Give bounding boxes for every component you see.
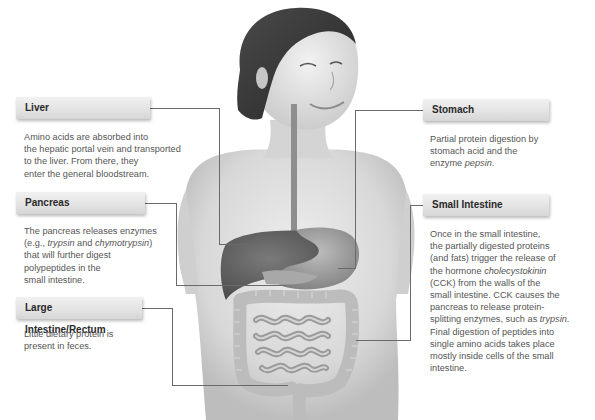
small-intestine-title: Small Intestine [432, 199, 503, 210]
liver-description: Amino acids are absorbed into the hepati… [24, 131, 224, 180]
liver-label: Liver [16, 97, 150, 119]
large-intestine-leader-line-vertical [172, 308, 173, 386]
large-intestine-leader-line-end [172, 385, 288, 386]
pancreas-description: The pancreas releases enzymes (e.g., try… [24, 225, 184, 286]
large-intestine-leader-line [142, 308, 173, 309]
large-intestine-label: Large Intestine/Rectum [16, 297, 142, 319]
stomach-leader-line-end [338, 268, 356, 269]
pancreas-label: Pancreas [16, 192, 145, 214]
small-intestine-label: Small Intestine [423, 194, 549, 216]
small-intestine-leader-line-end [356, 340, 411, 341]
stomach-leader-line-vertical [355, 110, 356, 269]
liver-title: Liver [25, 102, 49, 113]
small-intestine-leader-line [410, 205, 424, 206]
liver-leader-line-end [219, 244, 247, 245]
liver-leader-line [150, 108, 220, 109]
pancreas-title: Pancreas [25, 197, 69, 208]
pancreas-leader-line [145, 203, 177, 204]
stomach-description: Partial protein digestion by stomach aci… [430, 133, 590, 170]
head [237, 8, 358, 130]
stomach-title: Stomach [432, 104, 474, 115]
large-intestine-description: Little dietary protein is present in fec… [24, 328, 164, 352]
protein-digestion-figure: Liver Amino acids are absorbed into the … [0, 0, 595, 420]
esophagus [291, 104, 297, 232]
stomach-leader-line [355, 110, 423, 111]
stomach-label: Stomach [423, 99, 549, 121]
small-intestine-description: Once in the small intestine, the partial… [430, 228, 595, 374]
pancreas-leader-line-end [176, 285, 286, 286]
small-intestine-leader-line-vertical [410, 205, 411, 341]
